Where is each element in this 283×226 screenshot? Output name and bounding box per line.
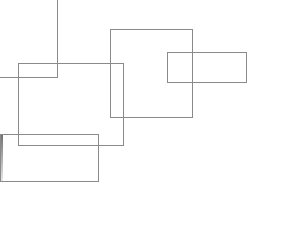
rectangle-d <box>167 52 247 83</box>
rectangle-e <box>0 134 99 182</box>
diagram-canvas <box>0 0 283 226</box>
